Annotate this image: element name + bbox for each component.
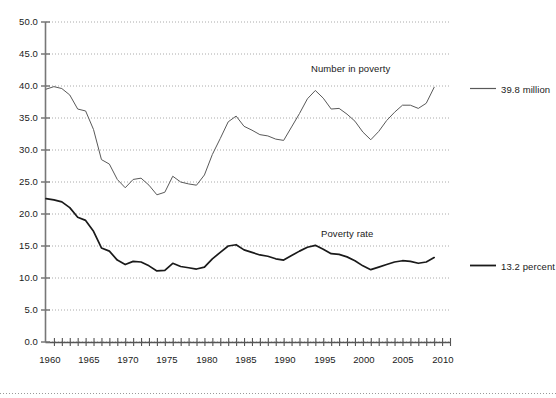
x-axis-tick-label: 2005 xyxy=(383,355,423,365)
series-line-poverty-rate xyxy=(46,199,434,271)
x-axis-tick-label: 2010 xyxy=(423,355,463,365)
annotation-poverty-rate: Poverty rate xyxy=(321,228,373,239)
annotation-number-in-poverty: Number in poverty xyxy=(311,63,390,74)
x-axis-tick-label: 1975 xyxy=(147,355,187,365)
x-axis-tick-label: 1965 xyxy=(69,355,109,365)
x-axis-tick-label: 1985 xyxy=(226,355,266,365)
legend-label-poverty-rate: 13.2 percent xyxy=(501,261,555,272)
poverty-chart-figure: 50.0 45.0 40.0 35.0 30.0 25.0 20.0 15.0 … xyxy=(0,0,556,398)
x-axis-tick-label: 1995 xyxy=(305,355,345,365)
x-axis-tick-label: 1960 xyxy=(30,355,70,365)
x-axis-tick-label: 1970 xyxy=(108,355,148,365)
plot-area xyxy=(0,0,556,398)
x-axis-tick-label: 2000 xyxy=(344,355,384,365)
x-axis-tick-label: 1980 xyxy=(187,355,227,365)
x-axis-tick-label: 1990 xyxy=(265,355,305,365)
legend-label-number-in-poverty: 39.8 million xyxy=(501,84,550,95)
series-line-number-in-poverty xyxy=(46,87,434,195)
